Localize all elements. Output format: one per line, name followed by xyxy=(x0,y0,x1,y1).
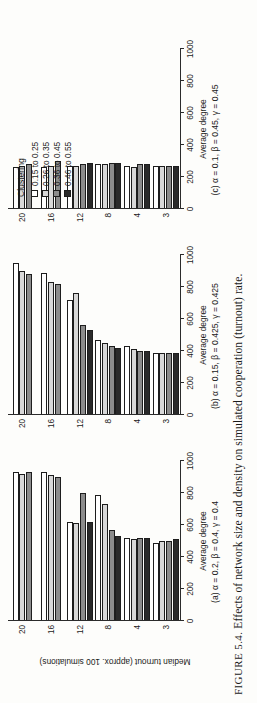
category-axis-line xyxy=(8,414,180,415)
value-tick-mark xyxy=(180,620,184,621)
value-tick-label: 200 xyxy=(186,582,195,596)
bar-group xyxy=(151,255,180,415)
figure-number: FIGURE 5.4. xyxy=(232,632,244,695)
bar xyxy=(153,353,159,415)
bar xyxy=(144,538,150,621)
bar xyxy=(13,472,19,621)
category-tick-label: 4 xyxy=(133,419,142,431)
category-axis-line xyxy=(8,208,180,209)
value-tick-label: 0 xyxy=(186,413,195,418)
legend-item-label: 0.36 to 0.45 xyxy=(52,142,62,186)
legend-item: 0.15 to 0.25 xyxy=(29,77,40,197)
bar xyxy=(55,477,61,621)
value-tick-label: 800 xyxy=(186,74,195,88)
bar-group xyxy=(8,461,37,621)
category-tick-label: 8 xyxy=(104,419,113,431)
bar xyxy=(124,346,130,415)
legend-title: Clustering xyxy=(16,77,26,197)
bar xyxy=(153,166,159,209)
clustering-legend: Clustering 0.15 to 0.250.26 to 0.350.36 … xyxy=(16,77,73,197)
bar xyxy=(67,522,73,621)
value-tick-mark xyxy=(180,414,184,415)
bar-group xyxy=(65,461,94,621)
bar xyxy=(115,163,121,209)
bar xyxy=(166,353,172,415)
bar xyxy=(109,530,115,621)
bar xyxy=(109,163,115,209)
bar xyxy=(13,263,19,415)
bar-group xyxy=(37,255,66,415)
bar xyxy=(102,343,108,415)
bar xyxy=(173,166,179,209)
bar xyxy=(115,348,121,415)
value-tick-label: 1000 xyxy=(186,452,195,470)
bar xyxy=(48,475,54,621)
value-axis-line xyxy=(180,255,181,415)
category-tick-label: 8 xyxy=(104,625,113,637)
bar xyxy=(95,495,101,621)
bar xyxy=(55,284,61,415)
legend-swatch-icon xyxy=(53,190,60,197)
category-tick-label: 8 xyxy=(104,213,113,225)
category-tick-label: 4 xyxy=(133,625,142,637)
figure-plate: Median turnout (approx. 100 simulations)… xyxy=(0,0,257,703)
category-tick-label: 12 xyxy=(75,625,84,637)
bar xyxy=(144,351,150,415)
bar xyxy=(153,543,159,621)
value-tick-label: 600 xyxy=(186,518,195,532)
legend-item: 0.36 to 0.45 xyxy=(51,77,62,197)
bar xyxy=(102,504,108,621)
value-tick-mark xyxy=(180,144,184,145)
category-axis-line xyxy=(8,620,180,621)
bar xyxy=(131,539,137,621)
legend-rows: 0.15 to 0.250.26 to 0.350.36 to 0.450.46… xyxy=(29,77,73,197)
bar xyxy=(124,166,130,209)
legend-swatch-icon xyxy=(42,190,49,197)
bar xyxy=(137,351,143,415)
legend-item-label: 0.46 to 0.55 xyxy=(63,142,73,186)
category-tick-label: 3 xyxy=(161,625,170,637)
value-tick-label: 1000 xyxy=(186,40,195,58)
category-tick-label: 20 xyxy=(18,625,27,637)
value-axis-title: Median turnout (approx. 100 simulations) xyxy=(25,657,205,667)
bar-group xyxy=(123,255,152,415)
value-tick-mark xyxy=(180,318,184,319)
bar xyxy=(137,538,143,621)
bar xyxy=(80,325,86,415)
legend-item: 0.26 to 0.35 xyxy=(40,77,51,197)
bar xyxy=(166,166,172,209)
category-tick-label: 20 xyxy=(18,419,27,431)
bar xyxy=(102,164,108,209)
value-tick-label: 400 xyxy=(186,550,195,564)
value-tick-mark xyxy=(180,524,184,525)
value-tick-mark xyxy=(180,556,184,557)
bar xyxy=(48,282,54,415)
value-tick-mark xyxy=(180,588,184,589)
value-tick-label: 1000 xyxy=(186,246,195,264)
value-tick-mark xyxy=(180,112,184,113)
bar-group xyxy=(94,461,123,621)
value-tick-label: 600 xyxy=(186,106,195,120)
bar xyxy=(131,349,137,415)
plot-area xyxy=(8,255,180,415)
category-tick-label: 16 xyxy=(47,625,56,637)
bar xyxy=(173,539,179,621)
bar xyxy=(109,346,115,415)
value-tick-label: 200 xyxy=(186,170,195,184)
bar-group xyxy=(151,49,180,209)
bar xyxy=(87,330,93,415)
value-tick-label: 800 xyxy=(186,486,195,500)
chart-panel-b: 34812162002004006008001000Average degree… xyxy=(6,247,220,445)
category-axis-title: Average degree xyxy=(198,255,208,415)
category-tick-label: 12 xyxy=(75,213,84,225)
bar xyxy=(87,163,93,209)
bar-group xyxy=(123,49,152,209)
value-tick-mark xyxy=(180,350,184,351)
bar xyxy=(73,523,79,621)
legend-swatch-icon xyxy=(64,190,71,197)
category-tick-label: 16 xyxy=(47,213,56,225)
bar xyxy=(159,166,165,209)
bar xyxy=(95,164,101,209)
plot-area xyxy=(8,461,180,621)
bar xyxy=(159,541,165,621)
